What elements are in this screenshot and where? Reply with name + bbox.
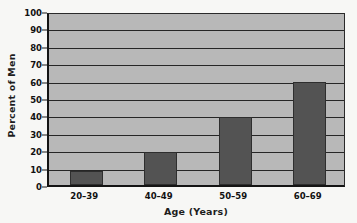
y-axis-tick-label: 90: [30, 26, 42, 35]
x-axis-title: Age (Years): [47, 206, 345, 217]
bar: [293, 82, 326, 185]
y-axis-tick-label: 80: [30, 44, 42, 53]
y-axis-tick-mark: [42, 117, 47, 118]
y-axis-tick-mark: [42, 82, 47, 83]
y-axis-tick-label: 100: [24, 9, 42, 18]
y-axis-tick-mark: [42, 30, 47, 31]
bar: [219, 117, 252, 185]
x-axis-tick-label: 40–49: [145, 192, 173, 201]
y-axis-title-label: Percent of Men: [6, 53, 17, 137]
gridline: [49, 48, 344, 49]
gridline: [49, 30, 344, 31]
y-axis-tick-label: 10: [30, 165, 42, 174]
x-axis-tick-label: 50–59: [219, 192, 247, 201]
y-axis-title: Percent of Men: [0, 0, 23, 190]
y-axis-tick-mark: [42, 134, 47, 135]
y-axis-tick-mark: [42, 152, 47, 153]
y-axis-tick-label: 50: [30, 96, 42, 105]
y-axis-tick-mark: [42, 65, 47, 66]
y-axis-tick-mark: [42, 100, 47, 101]
y-axis-tick-labels: 0102030405060708090100: [21, 13, 42, 187]
y-axis-tick-mark: [42, 187, 47, 188]
bar-chart: Percent of Men 0102030405060708090100 20…: [0, 0, 357, 223]
x-axis-tick-labels: 20–3940–4950–5960–69: [47, 192, 345, 206]
y-axis-tick-label: 30: [30, 131, 42, 140]
y-axis-tick-label: 60: [30, 78, 42, 87]
bar: [70, 171, 103, 185]
x-axis-tick-label: 20–39: [70, 192, 98, 201]
x-axis-tick-label: 60–69: [294, 192, 322, 201]
y-axis-tick-mark: [42, 169, 47, 170]
bar: [144, 152, 177, 185]
y-axis-tick-label: 20: [30, 148, 42, 157]
gridline: [49, 65, 344, 66]
y-axis-tick-label: 40: [30, 113, 42, 122]
y-axis-tick-mark: [42, 47, 47, 48]
y-axis-tick-label: 70: [30, 61, 42, 70]
y-axis-tick-mark: [42, 13, 47, 14]
plot-area: [47, 13, 345, 187]
